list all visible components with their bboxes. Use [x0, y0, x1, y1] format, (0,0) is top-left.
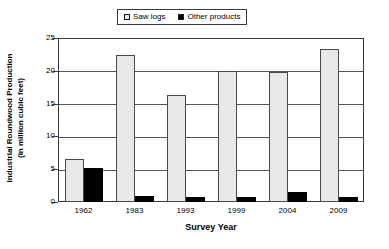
x-axis-tick-label-1993: 1993	[177, 206, 195, 216]
legend-label-saw-logs: Saw logs	[133, 12, 165, 22]
legend-label-other-products: Other products	[187, 12, 240, 22]
y-axis-title-line1: Industrial Roundwood Production	[5, 53, 14, 182]
y-axis-title-wrapper: Industrial Roundwood Production (in mill…	[2, 30, 28, 205]
gridline	[59, 104, 363, 105]
legend-item-other-products: Other products	[178, 12, 240, 22]
gridline	[59, 137, 363, 138]
x-axis-tick-label-1983: 1983	[126, 206, 144, 216]
open-square-icon	[124, 14, 130, 20]
y-axis-tick-mark	[52, 104, 58, 105]
chart-legend: Saw logs Other products	[117, 9, 247, 25]
gridline	[59, 170, 363, 171]
y-axis-title: Industrial Roundwood Production (in mill…	[4, 53, 26, 182]
x-axis-tick-label-2004: 2004	[279, 206, 297, 216]
x-axis-tick-label-1962: 1962	[75, 206, 93, 216]
bar-chart: Saw logs Other products Industrial Round…	[0, 0, 389, 249]
x-axis-title: Survey Year	[58, 222, 364, 233]
y-axis-tick-mark	[52, 71, 58, 72]
y-axis-tick-mark	[52, 169, 58, 170]
x-axis-tick-label-1999: 1999	[228, 206, 246, 216]
filled-square-icon	[178, 14, 184, 20]
y-axis-title-line2: (in million cubic feet)	[15, 53, 26, 182]
y-axis-tick-mark	[52, 136, 58, 137]
plot-area	[58, 38, 364, 202]
y-axis-tick-mark	[52, 202, 58, 203]
gridline	[59, 71, 363, 72]
legend-item-saw-logs: Saw logs	[124, 12, 165, 22]
x-axis-tick-label-2009: 2009	[330, 206, 348, 216]
y-axis-tick-mark	[52, 38, 58, 39]
